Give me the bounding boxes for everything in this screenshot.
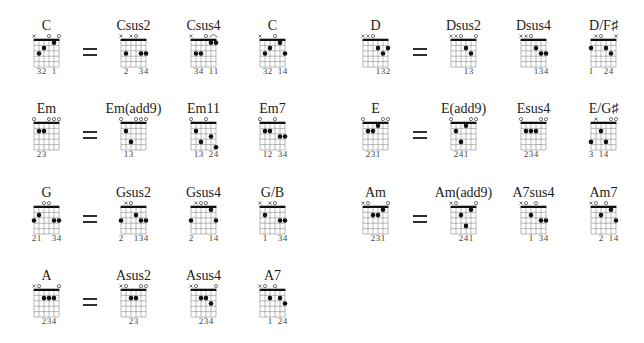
finger-number <box>385 233 391 243</box>
finger-number <box>385 149 391 159</box>
finger-numbers: 124 <box>581 66 626 76</box>
open-string-icon <box>474 202 477 205</box>
nut <box>521 39 547 41</box>
finger-numbers: 1324 <box>181 149 226 159</box>
open-string-icon <box>57 118 60 121</box>
equals-bar <box>413 54 427 56</box>
chord-diagram-am-add9: Am(add9)241 <box>441 185 486 245</box>
muted-string-icon <box>525 35 528 38</box>
chord-diagram-a: A234 <box>24 268 69 328</box>
finger-number: 1 <box>213 66 219 76</box>
open-string-icon <box>144 285 147 288</box>
chord-diagram-d-f-sharp: D/F♯124 <box>581 18 626 78</box>
open-string-icon <box>529 35 532 38</box>
finger-dot <box>204 296 209 301</box>
open-string-icon <box>42 202 45 205</box>
finger-dot <box>589 140 594 145</box>
chord-diagram-esus4: Esus4234 <box>511 101 556 161</box>
equals-bar <box>413 137 427 139</box>
nut <box>451 122 477 124</box>
muted-string-icon <box>190 35 193 38</box>
finger-numbers: 231 <box>353 233 398 243</box>
finger-number <box>473 233 479 243</box>
finger-number <box>213 316 219 326</box>
open-string-icon <box>381 118 384 121</box>
finger-dot <box>386 46 391 51</box>
open-string-icon <box>599 35 602 38</box>
muted-string-icon <box>595 35 598 38</box>
nut <box>521 122 547 124</box>
open-string-icon <box>371 35 374 38</box>
finger-dot <box>209 301 214 306</box>
chord-diagram-em7: Em71234 <box>250 101 295 161</box>
finger-number <box>56 66 62 76</box>
open-string-icon <box>534 202 537 205</box>
open-string-icon <box>273 118 276 121</box>
muted-string-icon <box>450 202 453 205</box>
finger-dot <box>589 46 594 51</box>
muted-string-icon <box>362 202 365 205</box>
finger-dot <box>32 218 37 223</box>
chord-diagram-dsus4: Dsus4134 <box>511 18 556 78</box>
nut <box>591 39 617 41</box>
open-string-icon <box>57 285 60 288</box>
finger-dot <box>52 296 57 301</box>
equals-sign <box>83 131 97 139</box>
muted-string-icon <box>450 35 453 38</box>
open-string-icon <box>134 35 137 38</box>
chord-diagram-c: C321 <box>24 18 69 78</box>
open-string-icon <box>37 285 40 288</box>
chord-diagram-csus2: Csus2234 <box>111 18 156 78</box>
finger-dot <box>124 51 129 56</box>
finger-dot <box>371 213 376 218</box>
finger-dot <box>609 207 614 212</box>
open-string-icon <box>454 202 457 205</box>
finger-number <box>56 316 62 326</box>
finger-numbers: 23 <box>111 316 156 326</box>
open-string-icon <box>52 118 55 121</box>
open-string-icon <box>361 118 364 121</box>
muted-string-icon <box>259 202 262 205</box>
finger-dot <box>194 51 199 56</box>
nut <box>121 289 147 291</box>
open-string-icon <box>449 118 452 121</box>
equals-sign <box>83 48 97 56</box>
muted-string-icon <box>362 35 365 38</box>
finger-dot <box>57 218 62 223</box>
finger-dot <box>283 301 288 306</box>
muted-string-icon <box>455 35 458 38</box>
open-string-icon <box>139 285 142 288</box>
finger-dot <box>37 213 42 218</box>
finger-numbers: 134 <box>511 233 556 243</box>
finger-dot <box>209 134 214 139</box>
finger-dot <box>268 296 273 301</box>
open-string-icon <box>124 285 127 288</box>
muted-string-icon <box>269 202 272 205</box>
finger-dot <box>544 218 549 223</box>
muted-string-icon <box>259 35 262 38</box>
finger-number: 4 <box>543 66 549 76</box>
finger-dot <box>534 129 539 134</box>
open-string-icon <box>204 35 207 38</box>
finger-dot <box>214 40 219 45</box>
finger-number: 4 <box>143 66 149 76</box>
nut <box>260 206 286 208</box>
open-string-icon <box>47 202 50 205</box>
open-string-icon <box>139 118 142 121</box>
equals-bar <box>83 304 97 306</box>
finger-dot <box>144 51 149 56</box>
finger-numbers: 23 <box>24 149 69 159</box>
finger-numbers: 134 <box>250 233 295 243</box>
muted-string-icon <box>595 118 598 121</box>
chord-diagram-csus4: Csus43411 <box>181 18 226 78</box>
equals-bar <box>83 48 97 50</box>
finger-dot <box>283 51 288 56</box>
muted-string-icon <box>520 202 523 205</box>
finger-number <box>473 149 479 159</box>
finger-number <box>56 149 62 159</box>
finger-dot <box>459 213 464 218</box>
finger-dot <box>199 296 204 301</box>
muted-string-icon <box>190 285 193 288</box>
finger-dot <box>544 51 549 56</box>
finger-dot <box>534 46 539 51</box>
